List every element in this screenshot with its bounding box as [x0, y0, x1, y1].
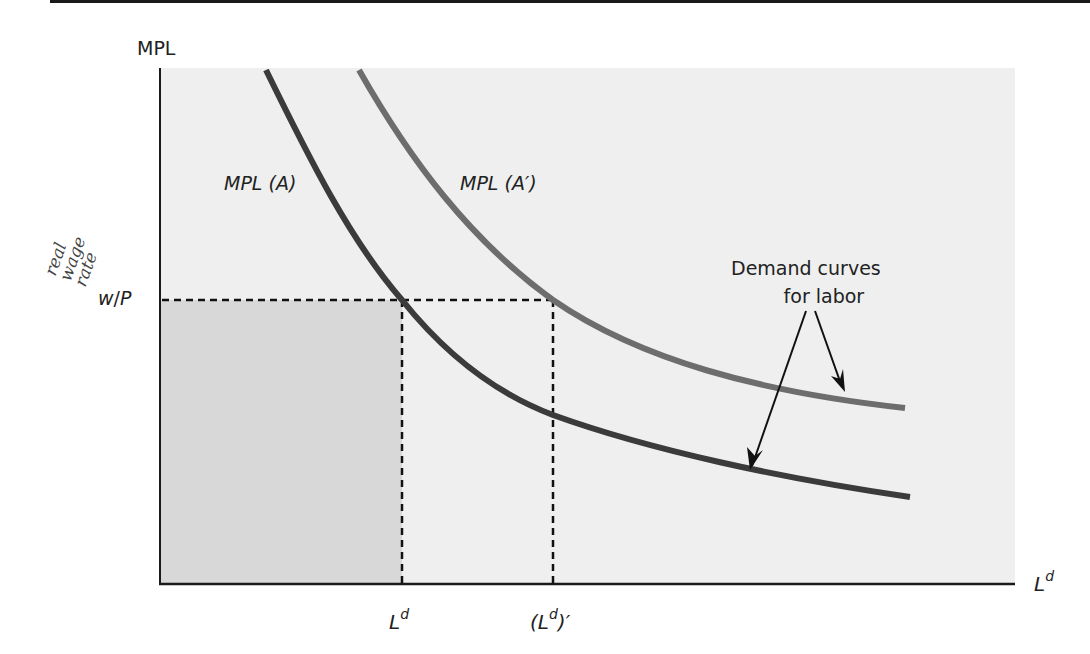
x-axis-label-sup: d: [1045, 568, 1054, 584]
x-tick-ld-prime-close: )′: [558, 610, 570, 634]
y-axis-label: MPL: [137, 37, 175, 59]
x-tick-ld: Ld: [389, 608, 409, 634]
shaded-region: [161, 300, 402, 584]
chart-figure: [0, 0, 1090, 654]
x-tick-ld-prime: (Ld)′: [530, 608, 570, 634]
x-tick-ld-prime-sup: d: [549, 606, 558, 622]
demand-annotation-line-2: for labor: [731, 282, 881, 310]
curve-label-mpl-a-prime: MPL (A′): [460, 172, 537, 194]
x-axis-label-main: L: [1034, 572, 1045, 596]
x-tick-ld-prime-open: (L: [530, 610, 549, 634]
demand-annotation-line-1: Demand curves: [731, 254, 881, 282]
x-axis-label: Ld: [1034, 570, 1054, 596]
curve-label-mpl-a: MPL (A): [224, 172, 296, 194]
demand-annotation: Demand curves for labor: [731, 254, 881, 310]
x-tick-ld-sup: d: [400, 606, 409, 622]
y-axis-label-text: MPL: [137, 37, 175, 59]
x-tick-ld-main: L: [389, 610, 400, 634]
wage-label-p: P: [120, 287, 131, 309]
wage-label-w: w: [98, 287, 114, 309]
wage-label: w/P: [98, 287, 131, 309]
